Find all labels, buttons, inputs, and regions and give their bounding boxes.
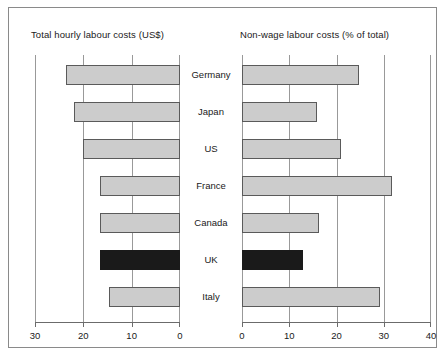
bar-us-right	[242, 139, 341, 159]
left-plot-area: 3020100	[35, 55, 180, 322]
bar-us-left	[83, 139, 180, 159]
category-label-japan: Japan	[180, 106, 242, 117]
bar-france-left	[100, 176, 180, 196]
category-label-us: US	[180, 143, 242, 154]
axis-tick-label: 20	[78, 330, 89, 341]
bar-france-right	[242, 176, 392, 196]
category-label-uk: UK	[180, 254, 242, 265]
gridline	[83, 55, 84, 322]
right-plot-area: 010203040	[242, 55, 431, 322]
chart-figure: Total hourly labour costs (US$) Non-wage…	[0, 0, 446, 356]
gridline	[35, 55, 36, 322]
bar-uk-left	[100, 250, 180, 270]
axis-tick-label: 30	[30, 330, 41, 341]
bar-italy-right	[242, 287, 380, 307]
category-label-canada: Canada	[180, 217, 242, 228]
category-label-france: France	[180, 180, 242, 191]
axis-tick-label: 10	[126, 330, 137, 341]
axis-tick-label: 30	[378, 330, 389, 341]
bar-japan-left	[74, 102, 180, 122]
chart-frame: Total hourly labour costs (US$) Non-wage…	[8, 7, 437, 348]
axis-line	[35, 322, 180, 323]
right-panel-title: Non-wage labour costs (% of total)	[240, 29, 389, 40]
bar-germany-right	[242, 65, 359, 85]
bar-uk-right	[242, 250, 303, 270]
axis-tick-label: 0	[177, 330, 182, 341]
axis-tick-label: 0	[239, 330, 244, 341]
axis-tick-label: 20	[331, 330, 342, 341]
bar-italy-left	[109, 287, 180, 307]
axis-line	[242, 322, 431, 323]
category-label-germany: Germany	[180, 69, 242, 80]
axis-tick-label: 10	[284, 330, 295, 341]
left-panel-title: Total hourly labour costs (US$)	[31, 29, 164, 40]
bar-japan-right	[242, 102, 317, 122]
category-label-italy: Italy	[180, 291, 242, 302]
axis-tick-label: 40	[426, 330, 437, 341]
bar-canada-right	[242, 213, 319, 233]
bar-canada-left	[100, 213, 180, 233]
bar-germany-left	[66, 65, 180, 85]
gridline	[430, 55, 431, 322]
